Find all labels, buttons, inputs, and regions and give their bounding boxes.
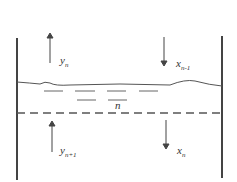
liquid-surface	[17, 81, 222, 87]
label-y-n-plus-1: yn+1	[60, 145, 77, 159]
plate-label: n	[115, 100, 121, 111]
liquid-lines	[44, 91, 158, 100]
label-y-n: yn	[60, 55, 68, 69]
tray-diagram	[0, 0, 237, 182]
label-x-n-minus-1: xn-1	[176, 58, 190, 72]
label-x-n: xn	[177, 145, 185, 159]
